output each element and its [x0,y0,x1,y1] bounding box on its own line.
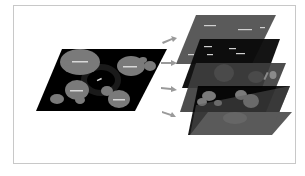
arrow-icon [162,36,177,44]
arrow-icon [161,86,177,92]
composite-map [36,49,167,111]
arrows [161,36,177,117]
arrow-icon [161,60,177,66]
layer-stack [176,15,292,135]
decomposition-diagram [0,0,305,176]
arrow-icon [162,111,176,117]
